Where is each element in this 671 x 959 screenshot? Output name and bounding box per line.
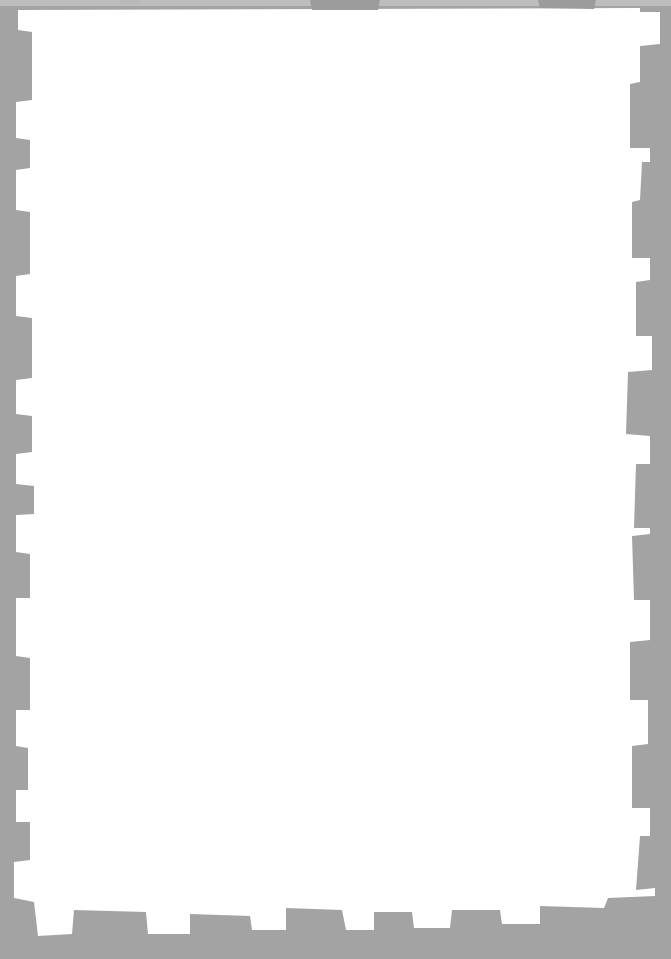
blank-paper-sheet	[0, 0, 671, 959]
scanned-page	[0, 0, 671, 959]
